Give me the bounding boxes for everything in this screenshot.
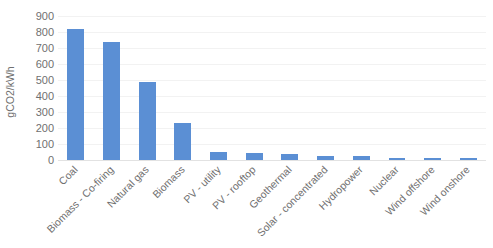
y-tick-label: 900 bbox=[18, 11, 54, 22]
bars-container bbox=[58, 16, 486, 160]
y-tick-label: 300 bbox=[18, 107, 54, 118]
y-tick-label: 200 bbox=[18, 123, 54, 134]
x-axis-tick-labels: CoalBiomass - Co-firingNatural gasBiomas… bbox=[58, 160, 486, 248]
y-tick-label: 500 bbox=[18, 75, 54, 86]
y-tick-label: 100 bbox=[18, 139, 54, 150]
bar-slot bbox=[272, 16, 308, 160]
bar-slot bbox=[129, 16, 165, 160]
bar-slot bbox=[201, 16, 237, 160]
bar-slot bbox=[415, 16, 451, 160]
bar-chart: gCO2/kWh 9008007006005004003002001000 Co… bbox=[0, 0, 493, 248]
bar[interactable] bbox=[174, 123, 191, 160]
plot-area bbox=[58, 16, 486, 160]
bar[interactable] bbox=[139, 82, 156, 160]
bar-slot bbox=[94, 16, 130, 160]
bar-slot bbox=[308, 16, 344, 160]
bar-slot bbox=[236, 16, 272, 160]
y-axis-tick-labels: 9008007006005004003002001000 bbox=[18, 0, 54, 168]
bar[interactable] bbox=[67, 29, 84, 160]
bar[interactable] bbox=[103, 42, 120, 160]
y-axis-title: gCO2/kWh bbox=[2, 34, 18, 150]
y-axis-title-text: gCO2/kWh bbox=[4, 66, 16, 117]
y-tick-label: 400 bbox=[18, 91, 54, 102]
y-tick-label: 600 bbox=[18, 59, 54, 70]
x-tick-label: Nuclear bbox=[367, 164, 400, 197]
x-tick-label: Coal bbox=[57, 164, 80, 187]
bar-slot bbox=[379, 16, 415, 160]
y-tick-label: 0 bbox=[18, 155, 54, 166]
bar[interactable] bbox=[210, 152, 227, 160]
y-tick-label: 700 bbox=[18, 43, 54, 54]
bar-slot bbox=[450, 16, 486, 160]
y-tick-label: 800 bbox=[18, 27, 54, 38]
bar-slot bbox=[58, 16, 94, 160]
bar-slot bbox=[343, 16, 379, 160]
bar-slot bbox=[165, 16, 201, 160]
